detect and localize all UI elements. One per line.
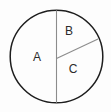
sector-label-c: C <box>69 62 78 76</box>
circle-sector-diagram: A B C <box>0 0 111 112</box>
diagonal-radius-divider <box>57 39 99 59</box>
sector-label-b: B <box>65 24 73 38</box>
sector-label-a: A <box>33 50 41 64</box>
circle-diagram-canvas: A B C <box>0 0 111 112</box>
